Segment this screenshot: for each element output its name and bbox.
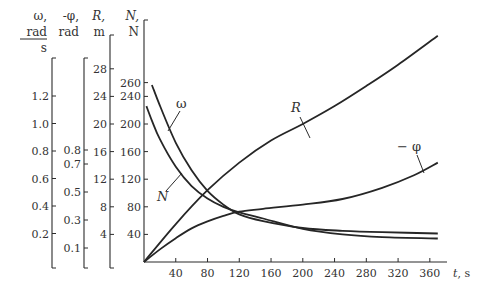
x-tick-label: 280	[356, 267, 377, 280]
tick-label: 40	[127, 228, 141, 241]
curve-N	[146, 106, 437, 238]
x-tick-label: 320	[388, 267, 409, 280]
tick-label: 0.1	[64, 242, 82, 255]
axis-title: N,	[124, 9, 139, 23]
r-curve-label: R	[290, 100, 301, 115]
tick-label: 20	[93, 118, 107, 131]
tick-label: 240	[120, 90, 141, 103]
tick-label: 120	[120, 173, 141, 186]
x-axis-title: t, s	[453, 267, 470, 280]
y-axis-phi: 0.10.30.50.70.8-φ,rad	[58, 9, 88, 268]
tick-label: 8	[100, 201, 107, 214]
axis-title: R,	[91, 9, 105, 23]
tick-label: 80	[127, 201, 141, 214]
tick-label: 4	[100, 228, 107, 241]
curve-phi	[144, 163, 438, 262]
tick-label: 16	[93, 146, 107, 159]
tick-label: 12	[93, 173, 107, 186]
multi-axis-line-chart: 0.20.40.60.81.01.2ω,rads0.10.30.50.70.8-…	[0, 0, 495, 287]
x-tick-label: 200	[292, 267, 313, 280]
axis-title: ω,	[33, 9, 47, 23]
tick-label: 0.7	[64, 158, 82, 171]
tick-label: 1.2	[32, 90, 50, 103]
tick-label: 28	[93, 63, 107, 76]
curve-R	[144, 36, 438, 262]
y-axis-N: 4080120160200240260N,N	[120, 9, 148, 262]
tick-label: 0.5	[64, 186, 82, 199]
x-tick-label: 120	[229, 267, 250, 280]
tick-label: 160	[120, 146, 141, 159]
n-curve-leader-line	[166, 173, 182, 191]
x-tick-label: 240	[324, 267, 345, 280]
omega-curve-leader-line	[168, 111, 180, 131]
omega-curve-label: ω	[176, 96, 187, 111]
tick-label: 260	[120, 77, 141, 90]
tick-label: 1.0	[32, 118, 50, 131]
x-tick-label: 40	[169, 267, 183, 280]
axis-title: N	[129, 25, 140, 39]
tick-label: 200	[120, 118, 141, 131]
y-axis-omega: 0.20.40.60.81.01.2ω,rads	[20, 9, 56, 268]
y-axis-R: 481216202428R,m	[91, 9, 114, 268]
tick-label: 0.4	[32, 200, 50, 213]
tick-label: 24	[93, 90, 107, 103]
x-tick-label: 80	[201, 267, 215, 280]
tick-label: 0.8	[32, 145, 50, 158]
axis-title: -φ,	[63, 9, 79, 23]
x-axis: 4080120160200240280320360t, s	[144, 258, 470, 280]
axis-title: rad	[26, 25, 47, 39]
axis-title: s	[41, 41, 47, 55]
tick-label: 0.8	[64, 144, 82, 157]
tick-label: 0.6	[32, 173, 50, 186]
tick-label: 0.3	[64, 214, 82, 227]
n-curve-label: N	[156, 189, 169, 204]
x-tick-label: 160	[261, 267, 282, 280]
phi-curve-label: − φ	[397, 139, 421, 154]
curves-group	[144, 36, 438, 262]
phi-curve-leader-line	[417, 155, 424, 173]
axis-title: m	[94, 25, 106, 39]
x-tick-label: 360	[419, 267, 440, 280]
tick-label: 0.2	[32, 228, 50, 241]
axis-title: rad	[58, 25, 79, 39]
